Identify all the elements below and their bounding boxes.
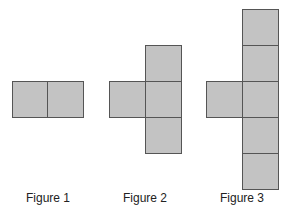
square — [12, 81, 49, 118]
square — [145, 81, 182, 118]
square — [145, 117, 182, 154]
square — [109, 81, 146, 118]
square — [242, 9, 279, 46]
square — [242, 45, 279, 82]
figure-2-label: Figure 2 — [105, 191, 185, 205]
square — [206, 81, 243, 118]
square — [242, 153, 279, 190]
figure-1-label: Figure 1 — [8, 191, 88, 205]
square — [242, 81, 279, 118]
square — [145, 45, 182, 82]
square — [47, 81, 84, 118]
square — [242, 117, 279, 154]
figure-3-label: Figure 3 — [202, 191, 282, 205]
